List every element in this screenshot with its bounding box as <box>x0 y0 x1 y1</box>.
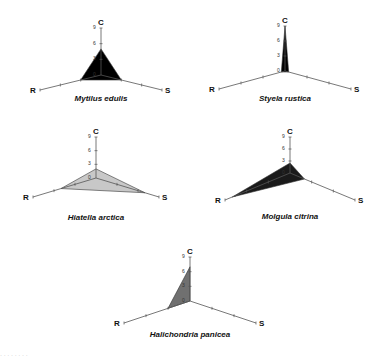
axis-label-s: S <box>354 85 359 94</box>
axis-label-s: S <box>259 319 264 328</box>
data-polygon <box>232 163 304 197</box>
axis-label-s: S <box>162 193 167 202</box>
species-title: Molgula citrina <box>262 212 318 221</box>
axis-label-r: R <box>30 86 36 95</box>
axis-label-r: R <box>209 85 215 94</box>
c-tick-label: 6 <box>282 145 285 151</box>
species-title: Mytilus edulis <box>75 94 128 103</box>
axis-label-r: R <box>114 319 120 328</box>
radar-halichondria <box>124 257 256 325</box>
c-tick-label: 0 <box>282 169 285 175</box>
c-tick-label: 3 <box>277 52 280 58</box>
c-tick-label: 0 <box>88 174 91 180</box>
axis-label-r: R <box>23 193 29 202</box>
species-title: Hiatella arctica <box>68 213 124 222</box>
species-title: Halichondria panicea <box>150 330 230 339</box>
radar-styela <box>219 26 351 91</box>
axis-label-s: S <box>165 86 170 95</box>
s-axis <box>285 71 351 89</box>
c-tick-label: 0 <box>93 71 96 77</box>
c-tick-label: 6 <box>277 37 280 43</box>
s-axis <box>290 173 355 200</box>
c-tick-label: 9 <box>282 133 285 139</box>
c-tick-label: 9 <box>277 22 280 28</box>
c-tick-label: 3 <box>88 160 91 166</box>
c-tick-label: 0 <box>277 67 280 73</box>
axis-label-s: S <box>358 196 363 205</box>
radar-hiatella <box>33 137 159 199</box>
truncated-caption: · · · · · · · · <box>0 352 28 358</box>
axis-label-c: C <box>187 247 193 256</box>
c-tick-label: 9 <box>88 133 91 139</box>
r-axis <box>124 301 190 323</box>
axis-label-c: C <box>282 16 288 25</box>
chart-canvas <box>0 0 389 361</box>
c-tick-label: 6 <box>88 147 91 153</box>
s-axis <box>101 75 162 90</box>
r-axis <box>219 71 285 89</box>
c-tick-label: 9 <box>182 253 185 259</box>
c-tick-label: 9 <box>93 24 96 30</box>
axis-label-r: R <box>215 196 221 205</box>
s-axis <box>190 301 256 323</box>
c-tick-label: 3 <box>93 55 96 61</box>
species-title: Styela rustica <box>259 94 311 103</box>
r-axis <box>40 75 101 90</box>
axis-label-c: C <box>93 127 99 136</box>
radar-mytilus <box>40 28 162 92</box>
radar-molgula <box>225 137 355 202</box>
c-tick-label: 6 <box>93 40 96 46</box>
axis-label-c: C <box>98 18 104 27</box>
c-tick-label: 3 <box>282 157 285 163</box>
c-tick-label: 0 <box>182 297 185 303</box>
c-tick-label: 6 <box>182 268 185 274</box>
axis-label-c: C <box>287 127 293 136</box>
c-tick-label: 3 <box>182 282 185 288</box>
r-axis <box>225 173 290 200</box>
